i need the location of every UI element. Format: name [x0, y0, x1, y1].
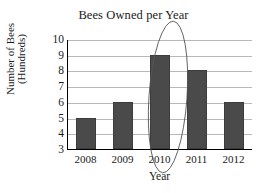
x-axis-label: Year — [67, 170, 252, 182]
bar-2008 — [76, 118, 96, 149]
y-tick-label: 7 — [44, 81, 64, 93]
y-tick-label: 3 — [44, 144, 64, 156]
y-tick-label: 10 — [44, 34, 64, 46]
x-tick-label: 2011 — [178, 153, 215, 165]
y-tick-label: 5 — [44, 113, 64, 125]
y-axis-label: Number of Bees (Hundreds) — [5, 11, 27, 107]
bar-2009 — [113, 102, 133, 149]
x-tick-label: 2009 — [104, 153, 141, 165]
bar-slot — [142, 40, 179, 149]
y-axis-tick-labels: 109876543 — [44, 40, 64, 150]
x-tick-label: 2012 — [215, 153, 252, 165]
x-axis-tick-labels: 20082009201020112012 — [67, 153, 252, 165]
bar-chart: Bees Owned per Year Number of Bees (Hund… — [0, 0, 267, 193]
bar-slot — [178, 40, 215, 149]
x-tick-label: 2008 — [67, 153, 104, 165]
y-tick-label: 8 — [44, 66, 64, 78]
plot-area — [67, 40, 252, 150]
bar-slot — [105, 40, 142, 149]
bar-slot — [68, 40, 105, 149]
y-tick-label: 4 — [44, 129, 64, 141]
y-tick-label: 6 — [44, 97, 64, 109]
y-axis-label-line-2: (Hundreds) — [16, 34, 27, 84]
bar-2010 — [150, 55, 170, 149]
x-tick-label: 2010 — [141, 153, 178, 165]
bars-container — [68, 40, 252, 149]
chart-title: Bees Owned per Year — [0, 8, 267, 23]
bar-slot — [215, 40, 252, 149]
bar-2011 — [187, 70, 207, 149]
bar-2012 — [224, 102, 244, 149]
y-tick-label: 9 — [44, 50, 64, 62]
